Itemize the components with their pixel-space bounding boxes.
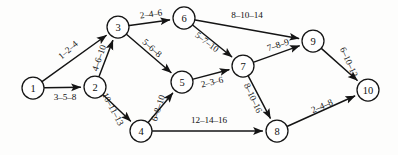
node-label-2: 2	[92, 82, 97, 93]
edge-6-to-9	[195, 20, 298, 38]
node-label-3: 3	[115, 22, 120, 33]
node-label-5: 5	[179, 77, 184, 88]
edge-label-9-10: 6–10–12	[338, 46, 360, 79]
node-5[interactable]: 5	[171, 71, 193, 93]
edge-label-8-10: 2–4–8	[310, 97, 335, 115]
node-8[interactable]: 8	[266, 120, 288, 142]
edge-3-to-6	[129, 20, 169, 25]
edge-label-1-2: 3–5–8	[54, 92, 77, 102]
network-diagram: 12345678910 1–2–43–5–84–6–1010–11–132–4–…	[0, 0, 398, 155]
edge-labels-layer: 1–2–43–5–84–6–1010–11–132–4–65–6–86–8–10…	[54, 7, 360, 127]
edge-label-4-5: 6–8–10	[149, 93, 167, 122]
node-7[interactable]: 7	[232, 55, 254, 77]
node-label-8: 8	[274, 126, 279, 137]
node-label-6: 6	[181, 13, 186, 24]
node-label-4: 4	[138, 126, 144, 137]
edge-label-3-6: 2–4–6	[139, 7, 163, 20]
edge-label-6-7: 5–7–10	[193, 30, 221, 55]
node-10[interactable]: 10	[357, 79, 379, 101]
node-label-7: 7	[240, 61, 245, 72]
edge-label-7-8: 8–10–16	[242, 82, 265, 115]
node-label-1: 1	[30, 83, 35, 94]
node-3[interactable]: 3	[107, 16, 129, 38]
edge-label-6-9: 8–10–14	[231, 10, 263, 20]
edge-label-2-4: 10–11–13	[100, 91, 126, 128]
node-1[interactable]: 1	[22, 77, 44, 99]
edge-label-1-3: 1–2–4	[56, 39, 80, 62]
node-label-9: 9	[310, 36, 315, 47]
edge-1-to-2	[44, 87, 80, 88]
node-9[interactable]: 9	[302, 30, 324, 52]
node-6[interactable]: 6	[173, 7, 195, 29]
edge-label-4-8: 12–14–16	[191, 115, 227, 125]
node-label-10: 10	[363, 85, 374, 96]
node-4[interactable]: 4	[130, 120, 152, 142]
network-diagram-canvas: 12345678910 1–2–43–5–84–6–1010–11–132–4–…	[0, 0, 398, 155]
